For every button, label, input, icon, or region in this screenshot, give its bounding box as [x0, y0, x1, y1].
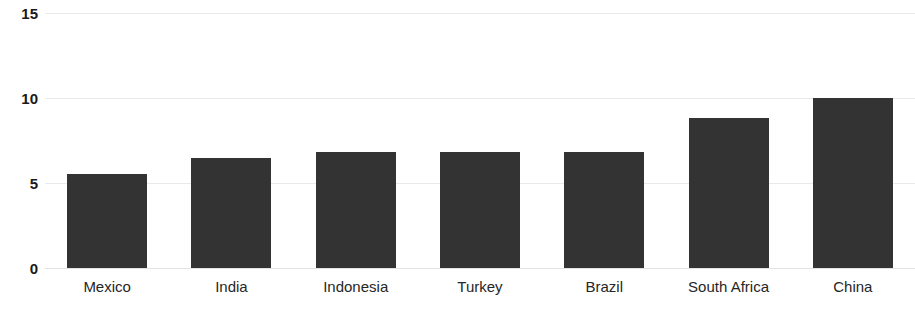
x-tick-label-indonesia: Indonesia [294, 279, 418, 294]
plot-area: MexicoIndiaIndonesiaTurkeyBrazilSouth Af… [45, 0, 915, 314]
y-tick-label-5: 5 [4, 176, 38, 191]
y-axis: 051015 [0, 0, 38, 314]
bar-india[interactable] [191, 158, 271, 268]
gridline-0 [45, 268, 915, 269]
bar-brazil[interactable] [564, 152, 644, 268]
bar-chart: 051015 MexicoIndiaIndonesiaTurkeyBrazilS… [0, 0, 915, 314]
x-tick-label-brazil: Brazil [542, 279, 666, 294]
y-tick-label-15: 15 [4, 6, 38, 21]
x-tick-label-india: India [169, 279, 293, 294]
gridline-10 [45, 98, 915, 99]
bar-indonesia[interactable] [316, 152, 396, 268]
bar-south-africa[interactable] [689, 118, 769, 268]
gridline-15 [45, 13, 915, 14]
x-tick-label-south-africa: South Africa [666, 279, 790, 294]
x-tick-label-turkey: Turkey [418, 279, 542, 294]
bar-mexico[interactable] [67, 174, 147, 268]
y-tick-label-0: 0 [4, 261, 38, 276]
bar-turkey[interactable] [440, 152, 520, 268]
x-tick-label-mexico: Mexico [45, 279, 169, 294]
y-tick-label-10: 10 [4, 91, 38, 106]
x-tick-label-china: China [791, 279, 915, 294]
bar-china[interactable] [813, 98, 893, 268]
